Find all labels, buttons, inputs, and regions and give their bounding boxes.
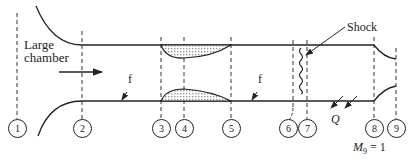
station-3: 3	[152, 119, 171, 138]
nozzle-top	[374, 45, 396, 59]
friction-arrow-left	[122, 92, 127, 100]
nozzle-bottom	[374, 86, 396, 101]
station-1: 1	[8, 119, 27, 138]
station-6: 6	[279, 119, 298, 138]
station-9: 9	[387, 119, 406, 138]
station-8: 8	[365, 119, 384, 138]
friction-label-right: f	[258, 73, 262, 86]
station-7: 7	[298, 119, 317, 138]
shock-leader	[306, 27, 345, 55]
station-5: 5	[222, 119, 241, 138]
heat-arrow-2	[345, 96, 357, 108]
station-4: 4	[175, 119, 194, 138]
exit-mach-symbol: M	[353, 140, 363, 154]
friction-label-left: f	[128, 73, 132, 86]
throat-body-bottom	[161, 89, 231, 101]
exit-mach-value: = 1	[367, 140, 386, 154]
exit-mach-label: M9 = 1	[353, 141, 386, 158]
shock-label: Shock	[347, 21, 377, 34]
heat-label: Q	[331, 113, 340, 126]
throat-body-top	[161, 45, 231, 58]
station-2: 2	[73, 119, 92, 138]
shock-wave	[300, 48, 303, 94]
chamber-label-line2: chamber	[24, 51, 69, 64]
heat-arrow-1	[331, 96, 343, 108]
station-lines	[17, 13, 396, 119]
friction-arrow-right	[252, 92, 257, 100]
